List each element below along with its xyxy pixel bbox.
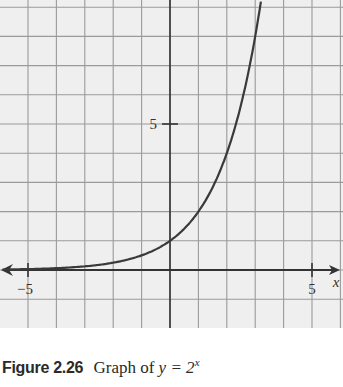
x-axis-label: x: [332, 274, 340, 290]
y-tick-label: 5: [150, 116, 158, 132]
chart-plot: −555x: [0, 0, 343, 340]
x-tick-label: −5: [17, 281, 33, 297]
caption-equation: y = 2x: [159, 358, 200, 377]
x-tick-label: 5: [308, 281, 316, 297]
figure-label: Figure 2.26: [2, 359, 83, 376]
figure-caption: Figure 2.26 Graph of y = 2x: [2, 356, 200, 378]
plot-background: [0, 0, 343, 328]
caption-text: Graph of: [93, 358, 158, 377]
